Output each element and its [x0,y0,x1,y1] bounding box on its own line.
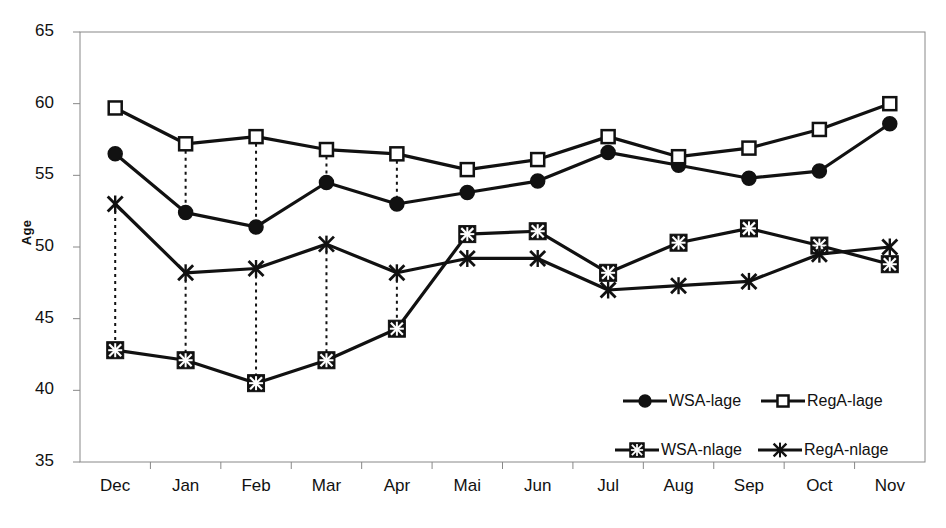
x-tick-label: Jul [573,476,643,496]
y-tick-label: 45 [14,308,54,328]
data-point-marker [883,97,896,110]
x-tick-label: Aug [644,476,714,496]
data-point-marker [601,145,615,159]
legend-label: RegA-nlage [804,441,889,459]
data-point-marker [672,150,685,163]
x-tick-label: Nov [855,476,925,496]
x-tick-label: Sep [714,476,784,496]
data-point-marker [459,226,476,243]
x-tick-label: Oct [784,476,854,496]
data-series [107,97,899,392]
data-point-marker [179,206,193,220]
data-point-marker [108,147,122,161]
data-point-marker [461,163,474,176]
y-tick-label: 50 [14,236,54,256]
y-axis-ticks [73,32,80,462]
x-tick-label: Mar [291,476,361,496]
legend-item-rega-lage: RegA-lage [760,388,883,414]
data-point-marker [531,153,544,166]
data-point-marker [812,164,826,178]
x-tick-label: Jun [503,476,573,496]
data-point-marker [318,352,335,369]
series-wsa-lage [108,117,897,234]
x-tick-label: Dec [80,476,150,496]
y-tick-label: 55 [14,164,54,184]
data-point-marker [460,186,474,200]
data-point-marker [179,137,192,150]
legend-item-rega-nlage: RegA-nlage [757,437,889,463]
data-point-marker [249,220,263,234]
x-tick-label: Feb [221,476,291,496]
data-point-marker [630,443,644,457]
data-point-marker [529,223,546,240]
data-point-marker [531,174,545,188]
data-point-marker [107,342,124,359]
chart-figure: Age 35404550556065 DecJanFebMarAprMaiJun… [0,0,946,528]
series-wsa-nlage [107,220,899,392]
data-point-marker [319,176,333,190]
y-tick-label: 40 [14,379,54,399]
data-point-marker [777,395,788,406]
data-point-marker [109,101,122,114]
series-rega-nlage [108,196,898,299]
series-rega-lage [109,97,897,176]
data-point-marker [813,123,826,136]
data-point-marker [600,264,617,281]
x-tick-label: Apr [362,476,432,496]
data-point-marker [388,320,405,337]
legend-item-wsa-lage: WSA-lage [622,388,741,414]
data-point-marker [390,197,404,211]
data-point-marker [883,117,897,131]
data-point-marker [639,395,651,407]
data-point-marker [742,171,756,185]
legend-item-wsa-nlage: WSA-nlage [614,437,742,463]
legend-marker-filled-circle-icon [622,390,668,412]
data-point-marker [248,375,265,392]
data-point-marker [177,352,194,369]
y-tick-label: 35 [14,451,54,471]
data-point-marker [602,130,615,143]
data-point-marker [320,143,333,156]
x-tick-label: Mai [432,476,502,496]
data-point-marker [250,130,263,143]
legend-marker-open-square-icon [760,390,806,412]
data-point-marker [670,234,687,251]
data-point-marker [390,147,403,160]
data-point-marker [108,196,123,213]
x-axis-ticks [150,462,854,469]
legend-label: RegA-lage [807,392,883,410]
legend-marker-x-cross-icon [757,439,803,461]
x-tick-label: Jan [151,476,221,496]
legend-label: WSA-nlage [661,441,742,459]
data-point-marker [319,236,334,253]
legend-marker-filled-square-x-icon [614,439,660,461]
data-point-marker [742,142,755,155]
data-point-marker [881,256,898,273]
y-tick-label: 60 [14,93,54,113]
y-tick-label: 65 [14,21,54,41]
legend-label: WSA-lage [669,392,741,410]
data-point-marker [740,220,757,237]
